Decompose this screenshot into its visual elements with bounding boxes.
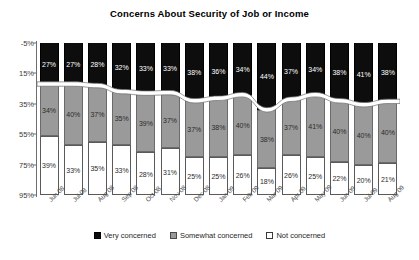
bar-segment[interactable]: 27% <box>64 43 83 84</box>
bar-segment[interactable]: 39% <box>40 136 59 195</box>
y-axis-tick-label: 35% <box>19 99 34 108</box>
bar-segment[interactable]: 37% <box>282 99 301 155</box>
bar-value-label: 34% <box>42 107 56 114</box>
bar-segment[interactable]: 41% <box>306 95 325 157</box>
bar-segment[interactable]: 37% <box>88 86 107 142</box>
bar-segment[interactable]: 41% <box>354 43 373 105</box>
y-axis-tick-label: 15% <box>19 69 34 78</box>
bar-segment[interactable]: 37% <box>282 43 301 99</box>
bar-value-label: 41% <box>308 123 322 130</box>
legend-label: Very concerned <box>104 231 156 240</box>
bar-segment[interactable]: 40% <box>64 84 83 145</box>
bar-segment[interactable]: 38% <box>185 43 204 101</box>
bar-segment[interactable]: 33% <box>136 43 155 93</box>
bar-value-label: 40% <box>66 111 80 118</box>
bar-segment[interactable]: 40% <box>330 101 349 162</box>
bar-column[interactable]: 38%40%22% <box>330 43 349 195</box>
bar-column[interactable]: 27%40%33% <box>64 43 83 195</box>
y-axis-tick-mark <box>33 164 36 165</box>
bar-column[interactable]: 34%41%25% <box>306 43 325 195</box>
y-axis-tick-mark <box>33 103 36 104</box>
bar-segment[interactable]: 38% <box>257 110 276 168</box>
bar-value-label: 26% <box>236 172 250 179</box>
bar-value-label: 39% <box>42 162 56 169</box>
bar-segment[interactable]: 38% <box>330 43 349 101</box>
bar-column[interactable]: 27%34%39% <box>40 43 59 195</box>
bar-value-label: 33% <box>163 65 177 72</box>
bar-value-label: 28% <box>139 171 153 178</box>
bar-value-label: 25% <box>308 173 322 180</box>
legend-item[interactable]: Very concerned <box>94 231 156 240</box>
bar-segment[interactable]: 35% <box>88 142 107 195</box>
bar-value-label: 32% <box>115 64 129 71</box>
bar-segment[interactable]: 40% <box>354 105 373 165</box>
bar-value-label: 38% <box>381 69 395 76</box>
bar-value-label: 27% <box>42 61 56 68</box>
bar-segment[interactable]: 28% <box>88 43 107 86</box>
bar-segment[interactable]: 34% <box>40 84 59 136</box>
legend-label: Not concerned <box>276 231 325 240</box>
bar-column[interactable]: 37%37%26% <box>282 43 301 195</box>
y-axis-tick-mark <box>33 73 36 74</box>
bar-segment[interactable]: 44% <box>257 43 276 110</box>
bar-value-label: 37% <box>284 124 298 131</box>
bar-value-label: 26% <box>284 172 298 179</box>
bar-value-label: 37% <box>163 117 177 124</box>
bar-value-label: 37% <box>187 126 201 133</box>
bar-segment[interactable]: 34% <box>233 43 252 95</box>
bar-value-label: 27% <box>66 61 80 68</box>
bar-segment[interactable]: 39% <box>136 93 155 152</box>
y-axis-tick-mark <box>33 195 36 196</box>
bar-segment[interactable]: 37% <box>185 101 204 157</box>
bar-segment[interactable]: 33% <box>161 43 180 93</box>
bar-column[interactable]: 32%35%33% <box>112 43 131 195</box>
bar-value-label: 37% <box>284 68 298 75</box>
legend-swatch <box>266 232 273 239</box>
bar-segment[interactable]: 33% <box>112 145 131 195</box>
bar-column[interactable]: 38%37%25% <box>185 43 204 195</box>
legend-item[interactable]: Not concerned <box>266 231 325 240</box>
bar-column[interactable]: 33%37%31% <box>161 43 180 195</box>
bar-value-label: 38% <box>332 69 346 76</box>
y-axis-tick-label: 75% <box>19 160 34 169</box>
bar-value-label: 37% <box>90 111 104 118</box>
y-axis-tick-mark <box>33 134 36 135</box>
bar-column[interactable]: 33%39%28% <box>136 43 155 195</box>
bar-value-label: 35% <box>90 165 104 172</box>
bar-value-label: 40% <box>236 122 250 129</box>
bar-column[interactable]: 44%38%18% <box>257 43 276 195</box>
bar-value-label: 31% <box>163 169 177 176</box>
bar-column[interactable]: 34%40%26% <box>233 43 252 195</box>
bar-segment[interactable]: 27% <box>40 43 59 84</box>
bar-column[interactable]: 41%40%20% <box>354 43 373 195</box>
bar-segment[interactable]: 34% <box>306 43 325 95</box>
bar-value-label: 21% <box>381 176 395 183</box>
bar-value-label: 40% <box>332 128 346 135</box>
bar-value-label: 33% <box>66 167 80 174</box>
legend-swatch <box>94 232 101 239</box>
bar-segment[interactable]: 35% <box>112 92 131 145</box>
y-axis-tick-label: -5% <box>21 39 34 48</box>
bar-segment[interactable]: 32% <box>112 43 131 92</box>
bar-value-label: 18% <box>260 178 274 185</box>
bar-column[interactable]: 28%37%35% <box>88 43 107 195</box>
bar-value-label: 33% <box>139 65 153 72</box>
bar-segment[interactable]: 40% <box>233 95 252 156</box>
bar-segment[interactable]: 36% <box>209 43 228 98</box>
y-axis-tick-label: 55% <box>19 130 34 139</box>
bar-value-label: 38% <box>187 69 201 76</box>
legend-item[interactable]: Somewhat concerned <box>170 231 253 240</box>
bar-segment[interactable]: 38% <box>378 43 397 101</box>
legend-swatch <box>170 232 177 239</box>
chart-legend: Very concernedSomewhat concernedNot conc… <box>0 231 419 240</box>
bar-column[interactable]: 38%40%21% <box>378 43 397 195</box>
bar-segment[interactable]: 40% <box>378 101 397 162</box>
bar-segment[interactable]: 37% <box>161 93 180 149</box>
bar-value-label: 34% <box>236 66 250 73</box>
bar-value-label: 35% <box>115 115 129 122</box>
chart-title: Concerns About Security of Job or Income <box>0 8 419 19</box>
bar-value-label: 38% <box>211 124 225 131</box>
bar-column[interactable]: 36%38%25% <box>209 43 228 195</box>
bar-segment[interactable]: 38% <box>209 98 228 156</box>
bar-value-label: 44% <box>260 73 274 80</box>
